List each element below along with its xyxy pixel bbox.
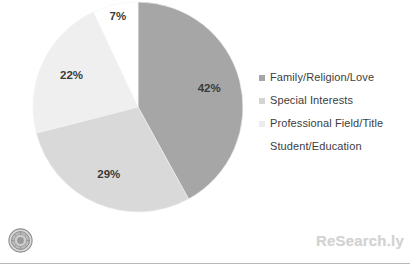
- university-seal-logo: [8, 228, 33, 253]
- bottom-divider: [0, 263, 410, 264]
- pie-slice-label: 22%: [60, 69, 83, 81]
- pie-chart-svg: 42%29%22%7%: [0, 0, 258, 220]
- pie-slice-label: 29%: [97, 168, 120, 180]
- legend-item[interactable]: Student/Education: [259, 135, 409, 157]
- legend-item-label: Special Interests: [270, 94, 353, 106]
- slide-canvas: 42%29%22%7% Family/Religion/LoveSpecial …: [0, 0, 410, 272]
- researchly-watermark: ReSearch.ly: [294, 232, 404, 250]
- legend-item[interactable]: Professional Field/Title: [259, 112, 409, 134]
- legend-swatch-icon: [259, 144, 265, 150]
- legend-item-label: Student/Education: [270, 140, 362, 152]
- chart-legend: Family/Religion/LoveSpecial InterestsPro…: [259, 66, 409, 158]
- legend-item[interactable]: Family/Religion/Love: [259, 66, 409, 88]
- pie-chart: 42%29%22%7%: [0, 0, 258, 220]
- legend-swatch-icon: [259, 98, 265, 104]
- legend-item-label: Family/Religion/Love: [270, 71, 374, 83]
- legend-item-label: Professional Field/Title: [270, 117, 383, 129]
- pie-slice-label: 42%: [198, 82, 221, 94]
- legend-swatch-icon: [259, 75, 265, 81]
- legend-item[interactable]: Special Interests: [259, 89, 409, 111]
- pie-slices: [33, 2, 243, 212]
- legend-swatch-icon: [259, 121, 265, 127]
- watermark-text: ReSearch.ly: [316, 232, 404, 249]
- pie-slice-label: 7%: [109, 10, 126, 22]
